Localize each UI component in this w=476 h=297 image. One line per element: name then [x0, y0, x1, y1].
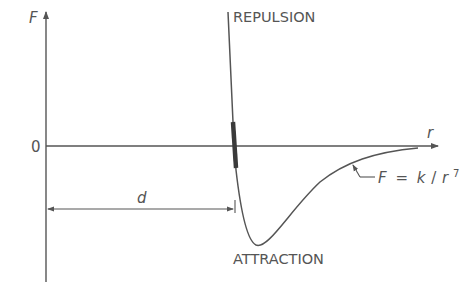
formula-leader-arrow — [353, 165, 360, 177]
origin-label: 0 — [31, 138, 41, 156]
repulsion-label: REPULSION — [233, 9, 315, 25]
formula-lhs: F — [378, 169, 387, 187]
formula-r: r — [442, 169, 449, 187]
equilibrium-segment — [233, 122, 236, 168]
diagram-canvas: F r 0 REPULSION ATTRACTION d F = k / r 7 — [0, 0, 476, 297]
d-dimension-label: d — [137, 189, 147, 207]
formula-slash: / — [431, 169, 437, 187]
force-separation-diagram: F r 0 REPULSION ATTRACTION d F = k / r 7 — [0, 0, 476, 297]
attraction-label: ATTRACTION — [233, 251, 324, 267]
formula-k: k — [417, 169, 427, 187]
formula-exponent: 7 — [453, 168, 459, 179]
x-axis-label: r — [427, 124, 434, 142]
force-law-formula: F = k / r 7 — [378, 168, 459, 187]
formula-equals: = — [395, 169, 408, 187]
y-axis-label: F — [29, 9, 38, 27]
force-curve — [228, 12, 418, 245]
